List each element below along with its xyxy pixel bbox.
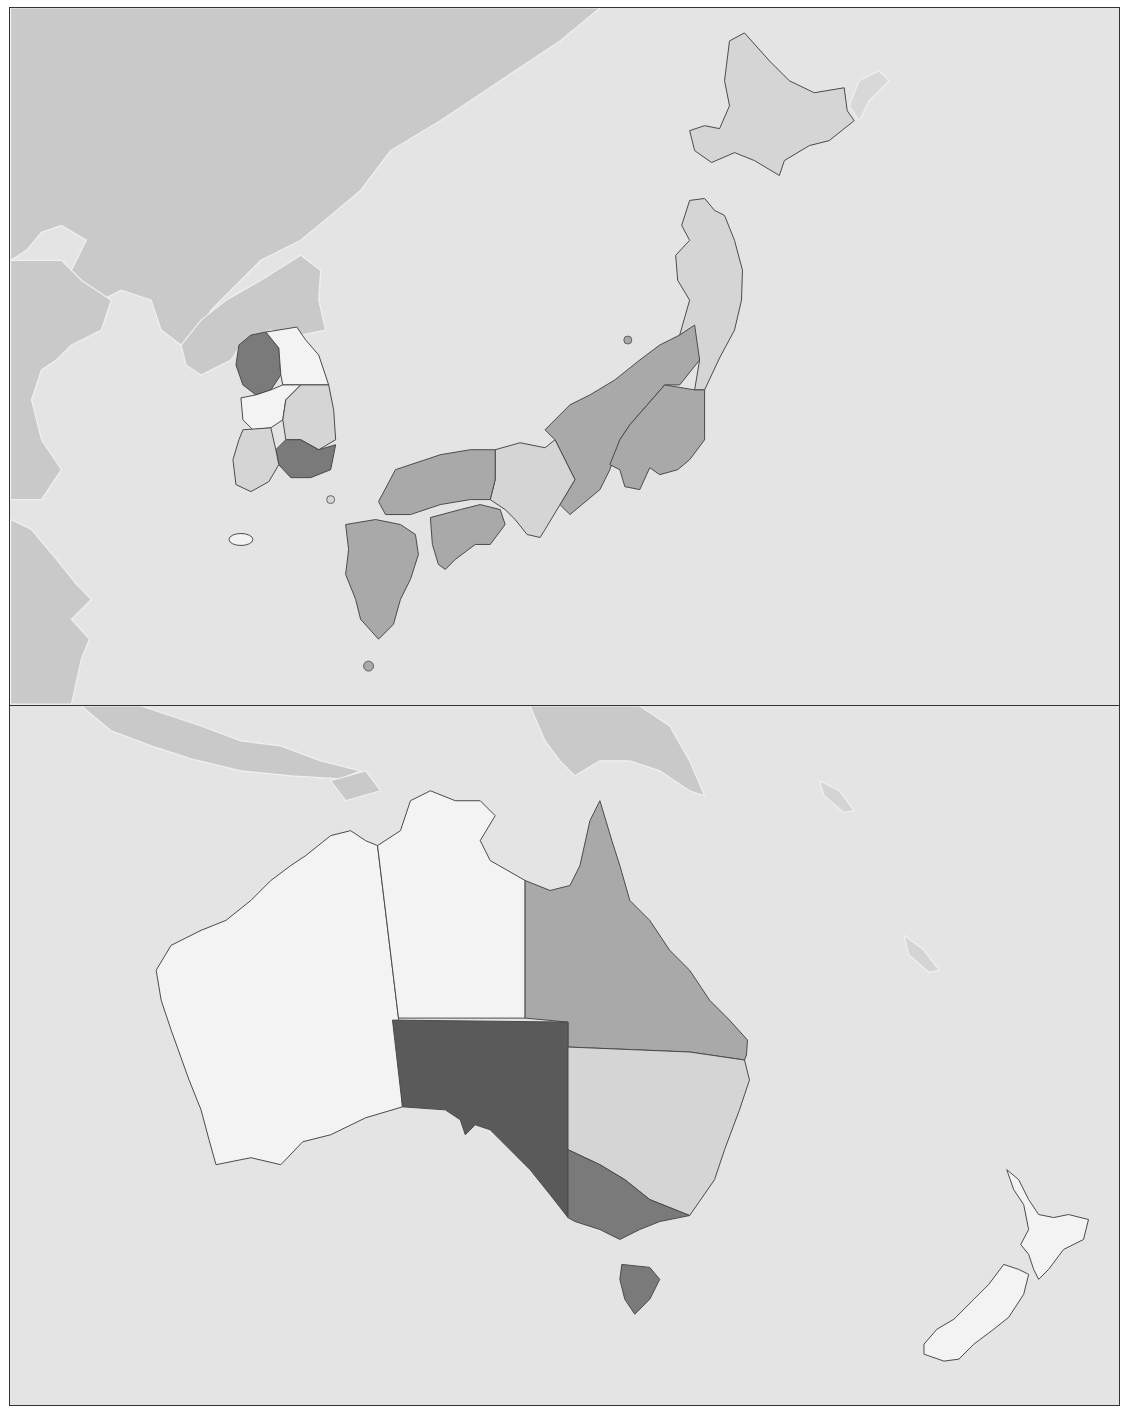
map-oceania <box>10 706 1119 1405</box>
island-tsushima <box>327 496 335 504</box>
island-okinawa <box>364 661 374 671</box>
map-panel-oceania <box>9 705 1120 1406</box>
island-sado <box>624 336 632 344</box>
map-panel-east-asia <box>9 7 1120 707</box>
map-east-asia <box>10 8 1119 706</box>
region-jeju[interactable] <box>229 533 253 545</box>
